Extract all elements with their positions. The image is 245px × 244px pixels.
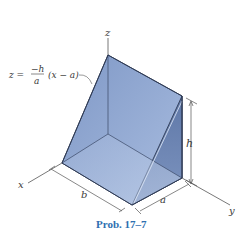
equation-rhs: (x − a): [48, 70, 79, 80]
dimension-b-label: b: [81, 189, 87, 200]
axis-y-label: y: [228, 205, 235, 216]
equation-lhs: z =: [8, 70, 24, 80]
equation-numerator: −h: [31, 64, 44, 74]
x-axis: [28, 163, 62, 183]
axis-x-label: x: [18, 179, 24, 190]
equation-leader: [79, 75, 92, 84]
dimension-h-label: h: [186, 137, 193, 150]
dimension-a-label: a: [160, 194, 166, 205]
axis-z-label: z: [104, 27, 111, 38]
figure-caption: Prob. 17–7: [96, 218, 147, 230]
wedge-diagram: h a b z x y z = −h a (x − a) Prob. 17–7: [0, 0, 245, 244]
surface-equation: z = −h a (x − a): [8, 64, 92, 86]
equation-denominator: a: [34, 76, 39, 86]
